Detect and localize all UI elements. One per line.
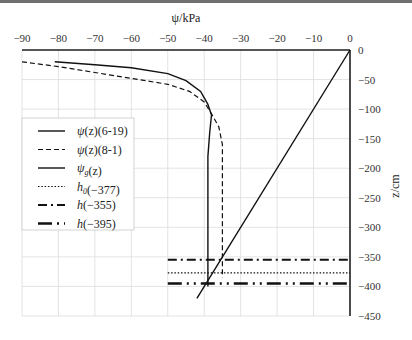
x-tick-label: −80 xyxy=(50,32,68,44)
y-tick-label: −450 xyxy=(358,310,381,322)
legend-label: ψ(z)(6-19) xyxy=(77,124,128,138)
series-line-2 xyxy=(197,50,350,298)
legend-label: h(−355) xyxy=(77,198,116,212)
x-tick-label: −10 xyxy=(305,32,323,44)
legend: ψ(z)(6-19)ψ(z)(8-1)ψg(z)h0(−377)h(−355)h… xyxy=(22,118,134,231)
y-tick-label: −250 xyxy=(358,192,381,204)
y-tick-label: −50 xyxy=(358,74,376,86)
x-tick-label: −60 xyxy=(123,32,141,44)
y-tick-label: −200 xyxy=(358,162,381,174)
x-tick-label: −40 xyxy=(196,32,214,44)
legend-label: ψ(z)(8-1) xyxy=(77,143,122,157)
y-tick-label: −100 xyxy=(358,103,381,115)
y-tick-label: −350 xyxy=(358,251,381,263)
y-tick-label: −150 xyxy=(358,133,381,145)
x-tick-label: −70 xyxy=(86,32,104,44)
x-tick-label: −20 xyxy=(269,32,287,44)
x-tick-label: 0 xyxy=(347,32,353,44)
x-axis-label: ψ/kPa xyxy=(172,11,202,25)
y-tick-label: −300 xyxy=(358,221,381,233)
x-tick-label: −50 xyxy=(159,32,177,44)
y-axis-label: z/cm xyxy=(388,174,402,198)
x-tick-label: −90 xyxy=(13,32,31,44)
x-tick-labels: −90−80−70−60−50−40−30−20−100 xyxy=(13,32,353,44)
y-tick-label: −400 xyxy=(358,280,381,292)
legend-label: h(−395) xyxy=(77,217,116,231)
chart: −90−80−70−60−50−40−30−20−100 0−50−100−15… xyxy=(0,0,412,340)
y-tick-labels: 0−50−100−150−200−250−300−350−400−450 xyxy=(358,44,381,322)
x-tick-label: −30 xyxy=(232,32,250,44)
y-tick-label: 0 xyxy=(358,44,364,56)
